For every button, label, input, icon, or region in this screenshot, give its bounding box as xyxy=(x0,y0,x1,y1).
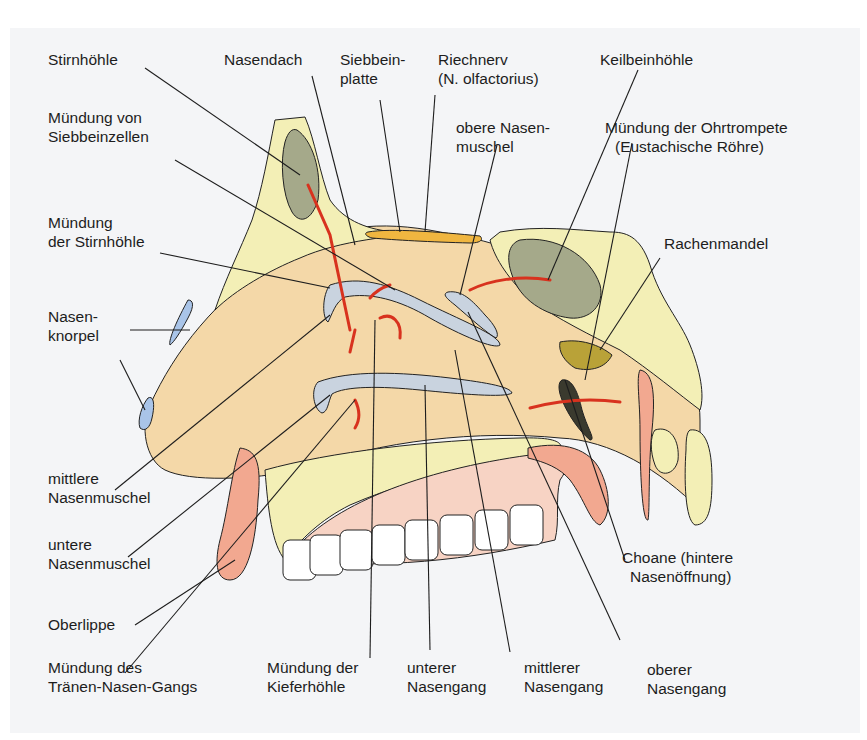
label-nasendach: Nasendach xyxy=(224,50,302,69)
label-untere-nasenmuschel: untereNasenmuschel xyxy=(48,535,151,573)
label-nasenknorpel: Nasen-knorpel xyxy=(48,307,99,345)
label-oberlippe: Oberlippe xyxy=(48,615,115,634)
tooth xyxy=(405,520,438,560)
label-muendung-kieferhoehle: Mündung derKieferhöhle xyxy=(267,658,358,696)
label-muendung-ohrtrompete: Mündung der Ohrtrompete(Eustachische Röh… xyxy=(605,118,788,156)
label-obere-nasenmuschel: obere Nasen-muschel xyxy=(456,118,550,156)
label-unterer-nasengang: untererNasengang xyxy=(407,658,486,696)
cervical-vertebra xyxy=(685,430,712,525)
label-mittlere-nasenmuschel: mittlereNasenmuschel xyxy=(48,469,151,507)
label-muendung-stirnhoehle: Mündungder Stirnhöhle xyxy=(48,213,145,251)
leader-line xyxy=(425,95,435,232)
tooth xyxy=(510,505,543,545)
nasal-cartilage xyxy=(170,300,193,345)
label-rachenmandel: Rachenmandel xyxy=(664,234,768,253)
tooth xyxy=(440,515,473,555)
leader-line xyxy=(120,360,145,410)
label-oberer-nasengang: obererNasengang xyxy=(647,660,726,698)
tooth xyxy=(310,535,343,575)
label-siebbeinplatte: Siebbein-platte xyxy=(340,50,406,88)
label-choane: Choane (hintereNasenöffnung) xyxy=(622,548,733,586)
label-riechnerv: Riechnerv(N. olfactorius) xyxy=(438,50,539,88)
label-keilbeinhoehle: Keilbeinhöhle xyxy=(600,50,693,69)
leader-line xyxy=(380,100,400,232)
label-mittlerer-nasengang: mittlererNasengang xyxy=(524,658,603,696)
label-muendung-siebbeinzellen: Mündung vonSiebbeinzellen xyxy=(48,108,149,146)
tooth xyxy=(372,525,405,565)
label-muendung-traenen-nasen-gang: Mündung desTränen-Nasen-Gangs xyxy=(48,658,197,696)
tooth xyxy=(475,510,508,550)
tooth xyxy=(340,530,373,570)
label-stirnhoehle: Stirnhöhle xyxy=(48,50,118,69)
